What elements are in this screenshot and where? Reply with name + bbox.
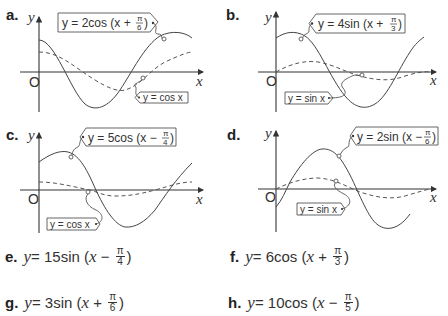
equation-ref-b: y = sin x xyxy=(288,93,325,104)
fraction: π3 xyxy=(333,246,342,267)
graph-b: y x O y = 4sin (x + π 3 ) y = sin x xyxy=(258,9,437,112)
x-axis-label: x xyxy=(429,72,437,88)
y-axis-label: y xyxy=(26,127,35,143)
frac-num: π xyxy=(137,14,143,23)
fraction: π6 xyxy=(108,292,117,313)
var-x: x xyxy=(82,293,90,313)
equation-main-c: y = 5cos (x − xyxy=(88,131,157,145)
frac-den: 4 xyxy=(163,138,168,147)
paren-close: ) xyxy=(432,130,436,144)
curve-sin-x xyxy=(276,61,430,79)
x-axis-label: x xyxy=(195,191,203,207)
var-x: x xyxy=(89,247,97,267)
paren-close: ) xyxy=(144,16,148,30)
exercise-label: h. xyxy=(228,294,241,311)
op: − xyxy=(97,248,114,265)
equation-ref-a: y = cos x xyxy=(143,92,183,103)
graph-c: y x O y = 5cos (x − π 4 ) y = cos x xyxy=(20,127,203,233)
y-axis-label: y xyxy=(263,9,272,25)
var-y: y xyxy=(24,293,32,313)
op: + xyxy=(89,294,106,311)
frac-num: π xyxy=(391,15,397,24)
curve-5cos xyxy=(39,151,192,227)
op: + xyxy=(314,248,331,265)
graph-a: y x O y = 2cos (x + π 6 ) y = cos x xyxy=(20,9,203,112)
y-axis-label: y xyxy=(263,125,272,141)
graphs-figure: y x O y = 2cos (x + π 6 ) y = cos x y x … xyxy=(0,0,448,316)
exercise-h: h. y = 10cos ( x − π5 ) xyxy=(228,292,360,313)
expr: = 3sin ( xyxy=(32,294,82,311)
expr: = 15sin ( xyxy=(31,248,89,265)
origin-label: O xyxy=(29,74,40,90)
equation-ref-c: y = cos x xyxy=(50,219,90,230)
exercise-e: e. y = 15sin ( x − π4 ) xyxy=(5,246,132,267)
var-y: y xyxy=(245,247,253,267)
paren-close: ) xyxy=(170,131,174,145)
var-x: x xyxy=(307,247,315,267)
paren-close: ) xyxy=(119,294,124,311)
equation-main-a: y = 2cos (x + xyxy=(62,16,131,30)
exercise-label: e. xyxy=(5,248,18,265)
exercise-f: f. y = 6cos ( x + π3 ) xyxy=(230,246,349,267)
equation-main-b: y = 4sin (x + xyxy=(318,17,383,31)
op: − xyxy=(325,294,342,311)
paren-close: ) xyxy=(344,248,349,265)
equation-ref-d: y = sin x xyxy=(300,204,337,215)
x-axis-label: x xyxy=(195,73,203,89)
fraction: π4 xyxy=(116,246,125,267)
expr: = 10cos ( xyxy=(255,294,317,311)
paren-close: ) xyxy=(398,17,402,31)
origin-label: O xyxy=(265,189,276,205)
frac-den: 6 xyxy=(425,137,430,146)
var-y: y xyxy=(24,247,32,267)
exercise-label: f. xyxy=(230,248,239,265)
paren-close: ) xyxy=(127,248,132,265)
y-axis-label: y xyxy=(26,9,35,25)
var-y: y xyxy=(247,293,255,313)
origin-label: O xyxy=(28,191,39,207)
exercise-label: g. xyxy=(5,294,18,311)
x-axis-label: x xyxy=(429,189,437,205)
curve-cos-x xyxy=(39,52,192,91)
paren-close: ) xyxy=(355,294,360,311)
frac-den: 6 xyxy=(137,23,142,32)
origin-label: O xyxy=(266,73,277,89)
expr: = 6cos ( xyxy=(253,248,307,265)
var-x: x xyxy=(317,293,325,313)
frac-num: π xyxy=(425,128,431,137)
frac-den: 3 xyxy=(391,24,396,33)
exercise-g: g. y = 3sin ( x + π6 ) xyxy=(5,292,124,313)
fraction: π5 xyxy=(344,292,353,313)
equation-main-d: y = 2sin (x − xyxy=(357,130,422,144)
graph-d: y x O y = 2sin (x − π 6 ) y = sin x xyxy=(258,125,438,232)
curve-cos-x xyxy=(39,182,192,196)
frac-num: π xyxy=(163,129,169,138)
